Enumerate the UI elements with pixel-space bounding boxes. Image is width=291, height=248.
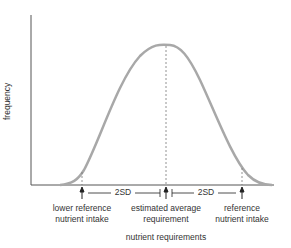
lrni-label: lower reference nutrient intake <box>42 203 122 225</box>
sd-right-label: 2SD <box>194 187 218 198</box>
x-axis-label: nutrient requirements <box>100 232 232 243</box>
ear-label: estimated average requirement <box>126 203 206 225</box>
y-axis-label: frequency <box>2 83 12 120</box>
arrow-icons <box>80 187 244 199</box>
sd-left-label: 2SD <box>111 187 135 198</box>
rni-label: reference nutrient intake <box>202 203 282 225</box>
